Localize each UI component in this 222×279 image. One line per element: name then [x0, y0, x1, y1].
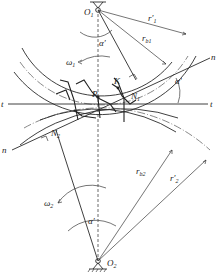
gear1-pitch-circle — [20, 56, 188, 105]
omega1-arrow — [80, 56, 110, 62]
gear1-addendum-circle — [14, 56, 196, 115]
omega2-arrow — [58, 185, 106, 203]
contact-point-k — [117, 87, 120, 90]
gear-teeth — [56, 78, 136, 122]
label-alpha-bottom: α′ — [88, 216, 96, 226]
label-rb1: rb1 — [142, 33, 152, 44]
alpha-arc-top — [80, 30, 112, 37]
label-n-right: n — [211, 52, 216, 62]
label-o2: O2 — [107, 258, 117, 269]
label-r1-prime: r′1 — [148, 13, 156, 24]
label-t-left: t — [1, 99, 4, 109]
right-angle-n2 — [41, 136, 48, 141]
label-omega2: ω2 — [44, 198, 53, 209]
label-t-right: t — [210, 99, 213, 109]
gear-mesh-diagram: O1 r′1 rb1 α′ ω1 n α′ K P N1 t t n N2 rb… — [0, 0, 222, 279]
label-n-left: n — [2, 145, 7, 155]
r2-prime-radius — [98, 160, 206, 261]
label-n1: N1 — [130, 91, 140, 102]
label-n2: N2 — [50, 128, 60, 139]
gear2-addendum-circle — [20, 109, 178, 145]
label-omega1: ω1 — [66, 57, 75, 68]
label-k: K — [113, 76, 121, 86]
label-alpha-right: α′ — [175, 76, 183, 86]
label-rb2: rb2 — [136, 166, 146, 177]
label-r2-prime: r′2 — [170, 173, 178, 184]
label-p: P — [91, 89, 98, 99]
right-angle-n1 — [129, 74, 137, 79]
o2-to-n2-line — [56, 130, 98, 261]
label-alpha-top: α′ — [99, 38, 107, 48]
rb2-radius — [98, 150, 172, 261]
label-o1: O1 — [84, 7, 94, 18]
gear2-base-circle — [40, 109, 176, 132]
